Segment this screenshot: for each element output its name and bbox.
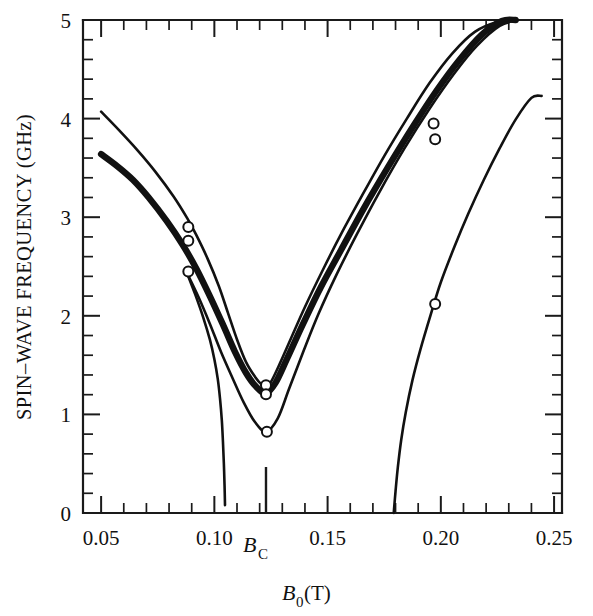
critical-field-label-base: B	[243, 532, 256, 557]
y-axis-ticks	[83, 20, 562, 513]
data-curve	[101, 20, 518, 386]
data-curves	[101, 20, 542, 513]
x-axis-ticks	[101, 20, 554, 513]
y-tick-label: 5	[61, 9, 72, 33]
y-tick-label: 0	[61, 502, 72, 526]
y-tick-label: 3	[61, 206, 72, 230]
data-point-marker	[183, 236, 193, 246]
y-axis-tick-labels: 012345	[61, 9, 72, 526]
data-point-marker	[183, 266, 193, 276]
y-tick-label: 1	[61, 403, 72, 427]
x-axis-title-subscript: 0	[296, 594, 304, 610]
x-tick-label: 0.05	[83, 526, 120, 550]
data-point-markers	[183, 119, 440, 437]
data-curve	[394, 96, 542, 513]
x-axis-title: B 0 (T)	[282, 580, 331, 610]
data-point-marker	[183, 222, 193, 232]
x-tick-label: 0.15	[309, 526, 346, 550]
y-axis-title: SPIN–WAVE FREQUENCY (GHz)	[13, 114, 36, 420]
y-tick-label: 2	[61, 305, 72, 329]
data-point-marker	[429, 119, 439, 129]
critical-field-label: B C	[243, 532, 268, 562]
axis-frame	[83, 20, 562, 513]
figure-container: 012345 0.050.100.150.200.25 B C B 0 (T) …	[0, 0, 593, 616]
x-axis-title-base: B	[282, 580, 295, 605]
critical-field-label-subscript: C	[258, 546, 268, 562]
axis-spines-top-right	[83, 20, 562, 513]
data-curve	[187, 273, 225, 505]
data-point-marker	[430, 134, 440, 144]
x-tick-label: 0.25	[536, 526, 573, 550]
y-tick-label: 4	[61, 108, 72, 132]
x-tick-label: 0.10	[196, 526, 233, 550]
axis-spines-left-bottom	[83, 20, 562, 513]
spin-wave-frequency-chart: 012345 0.050.100.150.200.25 B C B 0 (T) …	[0, 0, 593, 616]
data-point-marker	[430, 299, 440, 309]
x-axis-title-unit: (T)	[304, 581, 331, 605]
data-point-marker	[261, 389, 271, 399]
x-tick-label: 0.20	[422, 526, 459, 550]
x-axis-tick-labels: 0.050.100.150.200.25	[83, 526, 573, 550]
data-point-marker	[262, 427, 272, 437]
